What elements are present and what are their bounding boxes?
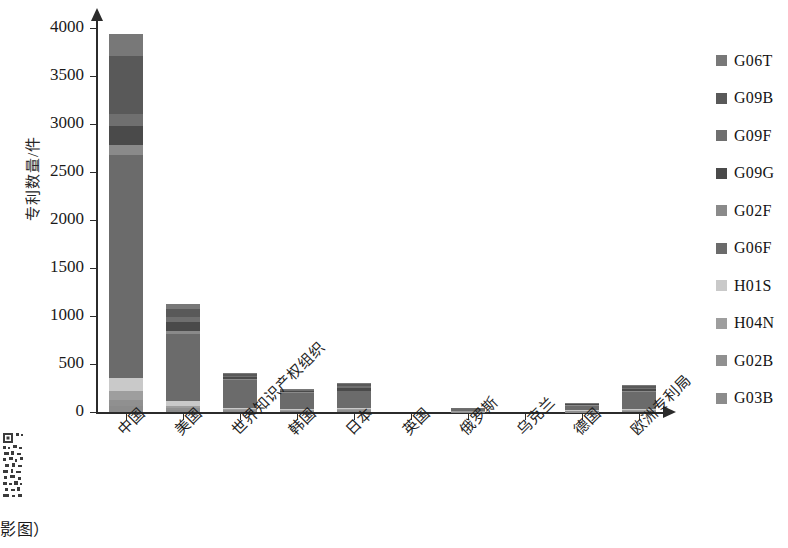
y-tick-label: 2500 [28, 161, 84, 181]
y-tick-mark [90, 412, 97, 413]
bar-segment[interactable] [109, 114, 143, 126]
legend-item[interactable]: G02F [716, 192, 788, 230]
y-tick-mark [90, 76, 97, 77]
legend-label: G02B [734, 352, 773, 370]
legend-label: G09G [734, 164, 774, 182]
y-tick-label: 0 [28, 401, 84, 421]
y-tick-mark [90, 124, 97, 125]
qr-code-icon [2, 432, 30, 504]
square-swatch-icon [716, 318, 727, 329]
legend-item[interactable]: G03B [716, 380, 788, 418]
legend-label: G06T [734, 52, 773, 70]
legend-item[interactable]: G06T [716, 42, 788, 80]
bar-segment[interactable] [109, 378, 143, 390]
legend-label: G02F [734, 202, 772, 220]
square-swatch-icon [716, 280, 727, 291]
legend-label: G06F [734, 239, 772, 257]
figure-caption: 影图） [0, 516, 50, 540]
y-tick-mark [90, 172, 97, 173]
y-tick-label: 3000 [28, 113, 84, 133]
y-tick-label: 3500 [28, 65, 84, 85]
bar-segment[interactable] [166, 309, 200, 318]
bar-segment[interactable] [109, 56, 143, 115]
square-swatch-icon [716, 130, 727, 141]
bar-segment[interactable] [109, 145, 143, 156]
bar-stack[interactable] [622, 18, 656, 412]
y-tick-mark [90, 220, 97, 221]
bar-stack[interactable] [394, 18, 428, 412]
bar-segment[interactable] [166, 322, 200, 331]
square-swatch-icon [716, 205, 727, 216]
legend-item[interactable]: H04N [716, 305, 788, 343]
square-swatch-icon [716, 355, 727, 366]
legend-label: G03B [734, 389, 773, 407]
bar-stack[interactable] [109, 18, 143, 412]
y-tick-mark [90, 364, 97, 365]
bar-segment[interactable] [109, 391, 143, 400]
chart-figure: 专利数量/件 05001000150020002500300035004000 … [0, 0, 788, 548]
chart-legend: G06TG09BG09FG09GG02FG06FH01SH04NG02BG03B [716, 42, 788, 417]
legend-item[interactable]: G02B [716, 342, 788, 380]
square-swatch-icon [716, 55, 727, 66]
y-tick-mark [90, 28, 97, 29]
legend-label: G09F [734, 127, 772, 145]
legend-item[interactable]: H01S [716, 267, 788, 305]
y-tick-mark [90, 316, 97, 317]
square-swatch-icon [716, 393, 727, 404]
bar-segment[interactable] [166, 334, 200, 401]
legend-label: H01S [734, 277, 772, 295]
bar-stack[interactable] [166, 18, 200, 412]
plot-area [97, 18, 667, 412]
square-swatch-icon [716, 168, 727, 179]
legend-label: G09B [734, 89, 773, 107]
y-tick-label: 1000 [28, 305, 84, 325]
legend-label: H04N [734, 314, 774, 332]
bar-stack[interactable] [508, 18, 542, 412]
legend-item[interactable]: G09G [716, 155, 788, 193]
legend-item[interactable]: G09B [716, 80, 788, 118]
square-swatch-icon [716, 93, 727, 104]
y-tick-label: 2000 [28, 209, 84, 229]
y-tick-mark [90, 268, 97, 269]
bar-segment[interactable] [109, 126, 143, 145]
bar-stack[interactable] [451, 18, 485, 412]
bar-stack[interactable] [223, 18, 257, 412]
bar-stack[interactable] [565, 18, 599, 412]
square-swatch-icon [716, 243, 727, 254]
bar-segment[interactable] [109, 34, 143, 55]
y-tick-label: 500 [28, 353, 84, 373]
bar-stack[interactable] [337, 18, 371, 412]
bar-segment[interactable] [109, 155, 143, 378]
legend-item[interactable]: G06F [716, 230, 788, 268]
y-tick-label: 4000 [28, 17, 84, 37]
legend-item[interactable]: G09F [716, 117, 788, 155]
y-tick-label: 1500 [28, 257, 84, 277]
